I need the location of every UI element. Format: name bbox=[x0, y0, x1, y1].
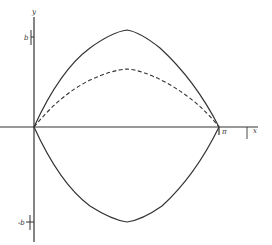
diagram-canvas: y b -b π x bbox=[0, 0, 272, 245]
b-label: b bbox=[24, 34, 29, 42]
upper-curve bbox=[34, 30, 219, 127]
neg-b-label: -b bbox=[18, 219, 25, 227]
pi-label: π bbox=[221, 128, 227, 136]
x-axis-label: x bbox=[253, 127, 257, 135]
lower-curve bbox=[34, 127, 219, 222]
neg-b-tick bbox=[26, 215, 34, 230]
y-axis-label: y bbox=[31, 8, 37, 16]
